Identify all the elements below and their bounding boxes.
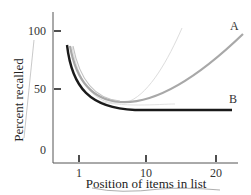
y-axis-title: Percent recalled bbox=[11, 58, 26, 142]
series-a-label: A bbox=[230, 19, 239, 33]
x-axis-title: Position of items in list bbox=[86, 176, 207, 191]
series-b-label: B bbox=[229, 92, 237, 106]
y-tick-label-100: 100 bbox=[28, 24, 46, 38]
y-tick-label-0: 0 bbox=[40, 143, 46, 157]
y-tick-label-50: 50 bbox=[34, 82, 46, 96]
series-b-line bbox=[67, 45, 232, 110]
serial-position-chart: 100 50 0 1 10 20 Percent recalled Positi… bbox=[0, 0, 251, 195]
x-tick-label-20: 20 bbox=[210, 166, 222, 180]
x-tick-label-1: 1 bbox=[76, 166, 82, 180]
